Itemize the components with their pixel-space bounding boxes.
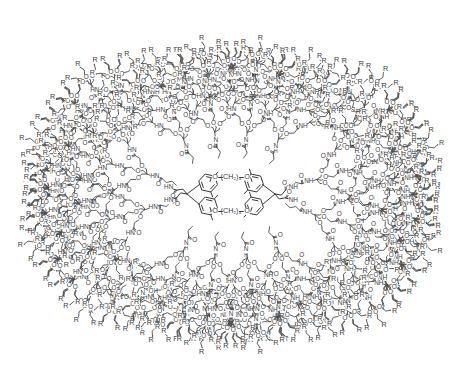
amide-nh-label: HN <box>189 110 199 117</box>
linker-oxygen-right: O <box>244 206 250 215</box>
carbonyl-oxygen-label: O <box>374 271 379 278</box>
amide-nh-label: HN <box>184 75 194 82</box>
terminal-r-label: R <box>182 63 187 72</box>
ether-oxygen-label: O <box>111 278 116 285</box>
terminal-r-label: R <box>224 39 229 48</box>
ether-oxygen-label: O <box>318 219 323 226</box>
terminal-r-label: R <box>234 39 239 48</box>
ether-oxygen-label: O <box>197 314 202 321</box>
ether-oxygen-label: O <box>256 87 261 94</box>
core-amide-label: NH <box>289 196 299 203</box>
terminal-r-label: R <box>419 167 424 176</box>
terminal-r-label: R <box>92 55 97 64</box>
terminal-r-label: R <box>241 37 246 46</box>
terminal-r-label: R <box>355 234 360 243</box>
ether-oxygen-label: O <box>308 317 313 324</box>
carbonyl-oxygen-label: O <box>331 117 336 124</box>
terminal-r-label: R <box>436 228 441 237</box>
amide-hydrogen-label: H <box>244 252 248 258</box>
amide-nh-label: HN <box>98 164 108 171</box>
terminal-r-label: R <box>65 73 70 82</box>
ether-oxygen-label: O <box>323 179 328 186</box>
ether-oxygen-label: O <box>102 192 107 199</box>
ether-oxygen-label: O <box>42 176 47 183</box>
carbonyl-oxygen-label: O <box>235 304 240 311</box>
terminal-r-label: R <box>130 61 135 70</box>
ether-oxygen-label: O <box>63 134 68 141</box>
carbonyl-oxygen-label: O <box>268 82 273 89</box>
ether-oxygen-label: O <box>252 259 257 266</box>
carbonyl-oxygen-label: O <box>87 186 92 193</box>
ether-oxygen-label: O <box>184 255 189 262</box>
terminal-r-label: R <box>308 45 313 54</box>
carbonyl-oxygen-label: O <box>54 196 59 203</box>
ether-oxygen-label: O <box>88 303 93 310</box>
ether-oxygen-label: O <box>144 101 149 108</box>
amide-nh-label: HN <box>115 162 125 169</box>
ether-oxygen-label: O <box>330 284 335 291</box>
terminal-r-label: R <box>206 57 211 66</box>
terminal-r-label: R <box>177 311 182 320</box>
carbonyl-oxygen-label: O <box>88 228 93 235</box>
terminal-r-label: R <box>134 83 139 92</box>
ether-oxygen-label: O <box>316 304 321 311</box>
carbonyl-oxygen-label: O <box>104 86 109 93</box>
terminal-r-label: R <box>434 204 439 213</box>
ether-oxygen-label: O <box>266 288 271 295</box>
terminal-r-label: R <box>287 279 292 288</box>
ether-oxygen-label: O <box>284 251 289 258</box>
ether-oxygen-label: O <box>217 120 222 127</box>
carbonyl-oxygen-label: O <box>51 221 56 228</box>
terminal-r-label: R <box>161 326 166 335</box>
carbonyl-oxygen-label: O <box>126 154 131 161</box>
terminal-r-label: R <box>321 56 326 65</box>
terminal-r-label: R <box>170 101 175 110</box>
amide-hydrogen-label: H <box>286 115 290 121</box>
carbonyl-oxygen-label: O <box>221 75 226 82</box>
terminal-r-label: R <box>192 49 197 58</box>
carbonyl-oxygen-label: O <box>330 194 335 201</box>
carbonyl-oxygen-label: O <box>59 187 64 194</box>
terminal-r-label: R <box>383 64 388 73</box>
ether-oxygen-label: O <box>211 263 216 270</box>
ether-oxygen-label: O <box>150 298 155 305</box>
terminal-r-label: R <box>35 112 40 121</box>
amide-nh-label: NH <box>264 271 274 278</box>
ether-oxygen-label: O <box>346 104 351 111</box>
terminal-r-label: R <box>381 124 386 133</box>
carbonyl-oxygen-label: O <box>82 139 87 146</box>
ether-oxygen-label: O <box>305 304 310 311</box>
terminal-r-label: R <box>177 334 182 343</box>
carbonyl-oxygen-label: O <box>202 106 207 113</box>
terminal-r-label: R <box>33 203 38 212</box>
amide-nh-label: NH <box>327 151 337 158</box>
amide-nh-label: HN <box>82 197 92 204</box>
terminal-r-label: R <box>28 254 33 263</box>
terminal-r-label: R <box>342 290 347 299</box>
terminal-r-label: R <box>308 335 313 344</box>
ether-oxygen-label: O <box>75 166 80 173</box>
ether-oxygen-label: O <box>134 208 139 215</box>
carbonyl-oxygen-label: O <box>163 113 168 120</box>
ether-oxygen-label: O <box>231 292 236 299</box>
amide-nh-label: NH <box>372 228 382 235</box>
amide-nh-label: HN <box>150 172 160 179</box>
dendrimer-structure-figure: OHNOOHNOOHNOONHOROROROOHNOROROROOHNORORO… <box>0 0 462 388</box>
carbonyl-oxygen-label: O <box>136 99 141 106</box>
ether-oxygen-label: O <box>241 96 246 103</box>
terminal-r-label: R <box>233 341 238 350</box>
amide-hydrogen-label: H <box>274 148 278 154</box>
amide-nh-label: HN <box>117 182 127 189</box>
carbonyl-oxygen-label: O <box>365 236 370 243</box>
carbonyl-oxygen-label: O <box>183 111 188 118</box>
carbonyl-oxygen-label: O <box>164 96 169 103</box>
terminal-r-label: R <box>258 33 263 42</box>
terminal-r-label: R <box>209 335 214 344</box>
carbonyl-oxygen-label: O <box>238 276 243 283</box>
amide-nh-label: NH <box>268 306 278 313</box>
amide-nh-label: NH <box>298 260 308 267</box>
carbonyl-bond <box>108 241 112 242</box>
terminal-r-label: R <box>422 266 427 275</box>
terminal-r-label: R <box>133 257 138 266</box>
carbonyl-oxygen-label: O <box>338 179 343 186</box>
